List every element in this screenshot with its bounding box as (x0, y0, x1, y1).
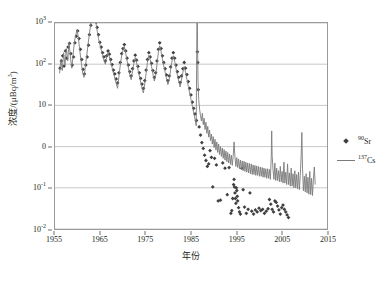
data-point (268, 198, 272, 202)
data-point (199, 133, 203, 137)
y-axis-title-prefix: 浓度/(μBq/m (8, 77, 18, 125)
y-axis-title-exponent: 3 (7, 74, 13, 77)
data-point (227, 166, 231, 170)
y-tick-label: 0 (42, 143, 46, 151)
data-point (204, 159, 208, 163)
legend-label-cs137: 137Cs (358, 156, 375, 165)
data-point (225, 193, 229, 197)
legend-base-cs137: Cs (367, 156, 375, 165)
x-tick-mark (236, 231, 237, 235)
y-axis-title-suffix: ) (8, 71, 18, 74)
x-tick-mark (99, 231, 100, 235)
x-tick-mark (328, 231, 329, 235)
x-axis: 1955196519751985199520052015 (54, 231, 328, 247)
data-point (210, 155, 214, 159)
data-point (133, 53, 137, 57)
line-marker-icon (336, 160, 356, 161)
legend-label-sr90: 90Sr (358, 137, 371, 146)
data-point (122, 43, 126, 47)
y-tick-mark (48, 230, 52, 231)
x-tick-label: 2005 (274, 235, 290, 244)
x-axis-title: 年份 (54, 249, 328, 262)
legend-item-cs137: 137Cs (336, 153, 392, 167)
legend-item-sr90: 90Sr (336, 134, 392, 148)
data-point (252, 212, 256, 216)
y-tick-label: 103 (35, 18, 46, 26)
y-tick-mark (48, 146, 52, 147)
chart-figure: 10310210010-110-2 浓度/(μBq/m3) 1955196519… (0, 0, 392, 281)
y-tick-label: 10-1 (33, 184, 46, 192)
data-point (269, 202, 273, 206)
data-point (278, 212, 282, 216)
data-point (232, 178, 236, 182)
data-point (243, 205, 247, 209)
data-point (197, 125, 201, 129)
y-tick-label: 10 (38, 101, 46, 109)
diamond-marker-icon (336, 139, 356, 143)
x-tick-label: 2015 (320, 235, 336, 244)
data-point (208, 149, 212, 153)
x-tick-label: 1995 (229, 235, 245, 244)
data-point (201, 147, 205, 151)
data-point (203, 153, 207, 157)
y-tick-label: 102 (35, 60, 46, 68)
legend: 90Sr 137Cs (336, 134, 392, 172)
data-point (248, 191, 252, 195)
y-tick-mark (48, 22, 52, 23)
x-tick-label: 1985 (183, 235, 199, 244)
data-point (214, 163, 218, 167)
data-point (158, 41, 162, 45)
y-tick-mark (48, 188, 52, 189)
data-point (200, 141, 204, 145)
data-point (147, 51, 151, 55)
x-tick-label: 1955 (46, 235, 62, 244)
data-point (211, 185, 215, 189)
data-point (244, 211, 248, 215)
data-point (223, 166, 227, 170)
x-tick-mark (191, 231, 192, 235)
data-point (276, 204, 280, 208)
legend-base-sr90: Sr (364, 137, 371, 146)
data-point (277, 208, 281, 212)
y-tick-label: 10-2 (33, 226, 46, 234)
y-tick-mark (48, 63, 52, 64)
data-point (246, 207, 250, 211)
line-series-cs137 (60, 23, 316, 196)
plot-area (54, 22, 328, 230)
scatter-series-sr90 (58, 23, 290, 219)
y-axis-title: 浓度/(μBq/m3) (6, 29, 19, 169)
x-tick-label: 1975 (137, 235, 153, 244)
data-point (171, 51, 175, 55)
data-point (237, 206, 241, 210)
x-tick-mark (54, 231, 55, 235)
data-point (213, 156, 217, 160)
y-tick-mark (48, 105, 52, 106)
data-point (72, 55, 76, 59)
x-tick-mark (145, 231, 146, 235)
data-point (182, 61, 186, 65)
data-point (241, 188, 245, 192)
data-point (73, 41, 77, 45)
legend-sup-cs137: 137 (358, 154, 367, 160)
data-series-layer (55, 23, 327, 229)
x-tick-mark (282, 231, 283, 235)
data-point (250, 209, 254, 213)
x-tick-label: 1965 (92, 235, 108, 244)
data-point (221, 161, 225, 165)
